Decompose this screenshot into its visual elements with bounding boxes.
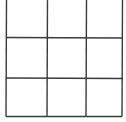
cell-1-0[interactable] [7,39,47,78]
cell-2-0[interactable] [7,79,47,116]
tic-tac-toe-board [0,0,126,122]
cell-1-2[interactable] [87,39,122,78]
cell-1-1[interactable] [48,39,86,78]
cell-0-0[interactable] [7,0,47,37]
cell-0-2[interactable] [87,0,122,37]
cell-0-1[interactable] [48,0,86,37]
cell-2-1[interactable] [48,79,86,116]
cell-2-2[interactable] [87,79,122,116]
